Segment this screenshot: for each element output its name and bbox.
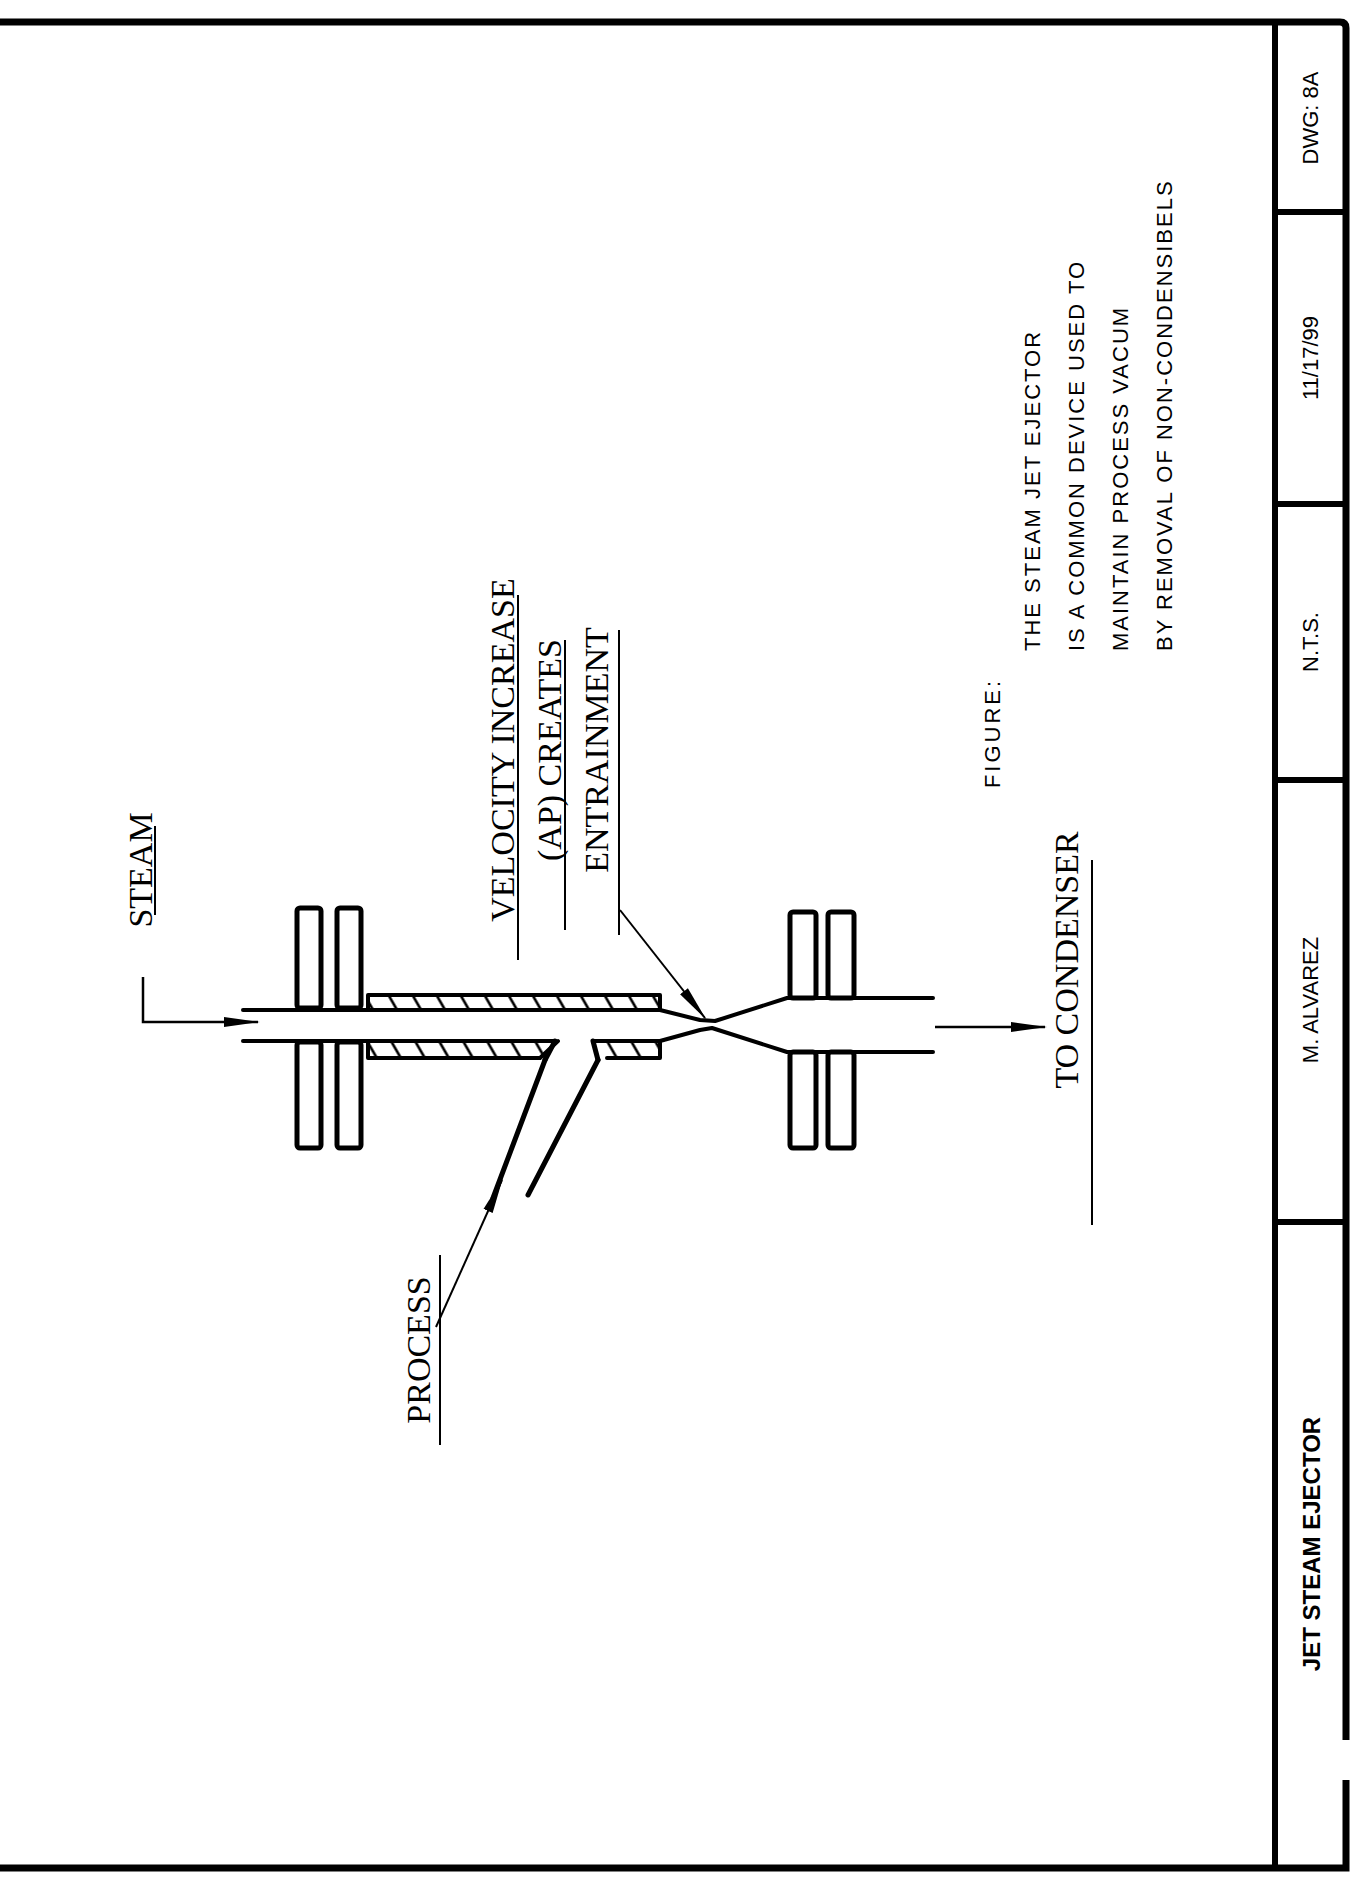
venturi-lower-wall bbox=[660, 1028, 933, 1052]
drawing-date: 11/17/99 bbox=[1298, 316, 1323, 400]
svg-text:STEAM: STEAM bbox=[122, 812, 159, 927]
steam-arrow-icon bbox=[143, 977, 258, 1022]
drawing-scale: N.T.S. bbox=[1298, 612, 1323, 672]
outlet-flange bbox=[790, 912, 854, 1148]
ejector-diagram bbox=[243, 908, 933, 1198]
drawing-title: JET STEAM EJECTOR bbox=[1298, 1417, 1325, 1671]
velocity-note: VELOCITY INCREASE (AP) CREATES ENTRAINME… bbox=[484, 578, 619, 960]
svg-text:(AP) CREATES: (AP) CREATES bbox=[531, 639, 569, 861]
inlet-flange bbox=[297, 908, 361, 1148]
nozzle-body-upper bbox=[368, 995, 660, 1010]
steam-label: STEAM bbox=[122, 812, 159, 927]
svg-text:TO CONDENSER: TO CONDENSER bbox=[1048, 831, 1085, 1089]
svg-text:VELOCITY INCREASE: VELOCITY INCREASE bbox=[484, 578, 521, 921]
drawing-author: M. ALVAREZ bbox=[1298, 937, 1323, 1063]
figure-description: THE STEAM JET EJECTOR IS A COMMON DEVICE… bbox=[1020, 179, 1177, 651]
process-label: PROCESS bbox=[400, 1255, 440, 1445]
svg-text:BY REMOVAL OF NON-CONDENSIBELS: BY REMOVAL OF NON-CONDENSIBELS bbox=[1152, 179, 1177, 651]
drawing-sheet: DWG: 8A 11/17/99 N.T.S. M. ALVAREZ JET S… bbox=[0, 0, 1366, 1887]
venturi-upper-wall bbox=[660, 998, 933, 1021]
drawing-number: DWG: 8A bbox=[1298, 71, 1323, 164]
process-inlet-pipe bbox=[493, 1041, 598, 1198]
nozzle-body-lower bbox=[368, 1041, 660, 1058]
condenser-label: TO CONDENSER bbox=[1048, 831, 1092, 1225]
svg-text:IS A COMMON DEVICE USED TO: IS A COMMON DEVICE USED TO bbox=[1064, 260, 1089, 651]
svg-text:PROCESS: PROCESS bbox=[400, 1276, 437, 1423]
svg-text:ENTRAINMENT: ENTRAINMENT bbox=[578, 627, 615, 873]
svg-text:THE STEAM JET EJECTOR: THE STEAM JET EJECTOR bbox=[1020, 330, 1045, 651]
sheet-border bbox=[0, 22, 1346, 1868]
process-leader-arrow-icon bbox=[436, 1180, 502, 1327]
svg-text:MAINTAIN PROCESS VACUM: MAINTAIN PROCESS VACUM bbox=[1108, 306, 1133, 651]
flow-arrows bbox=[143, 910, 1045, 1327]
figure-heading: FIGURE: bbox=[980, 678, 1005, 788]
